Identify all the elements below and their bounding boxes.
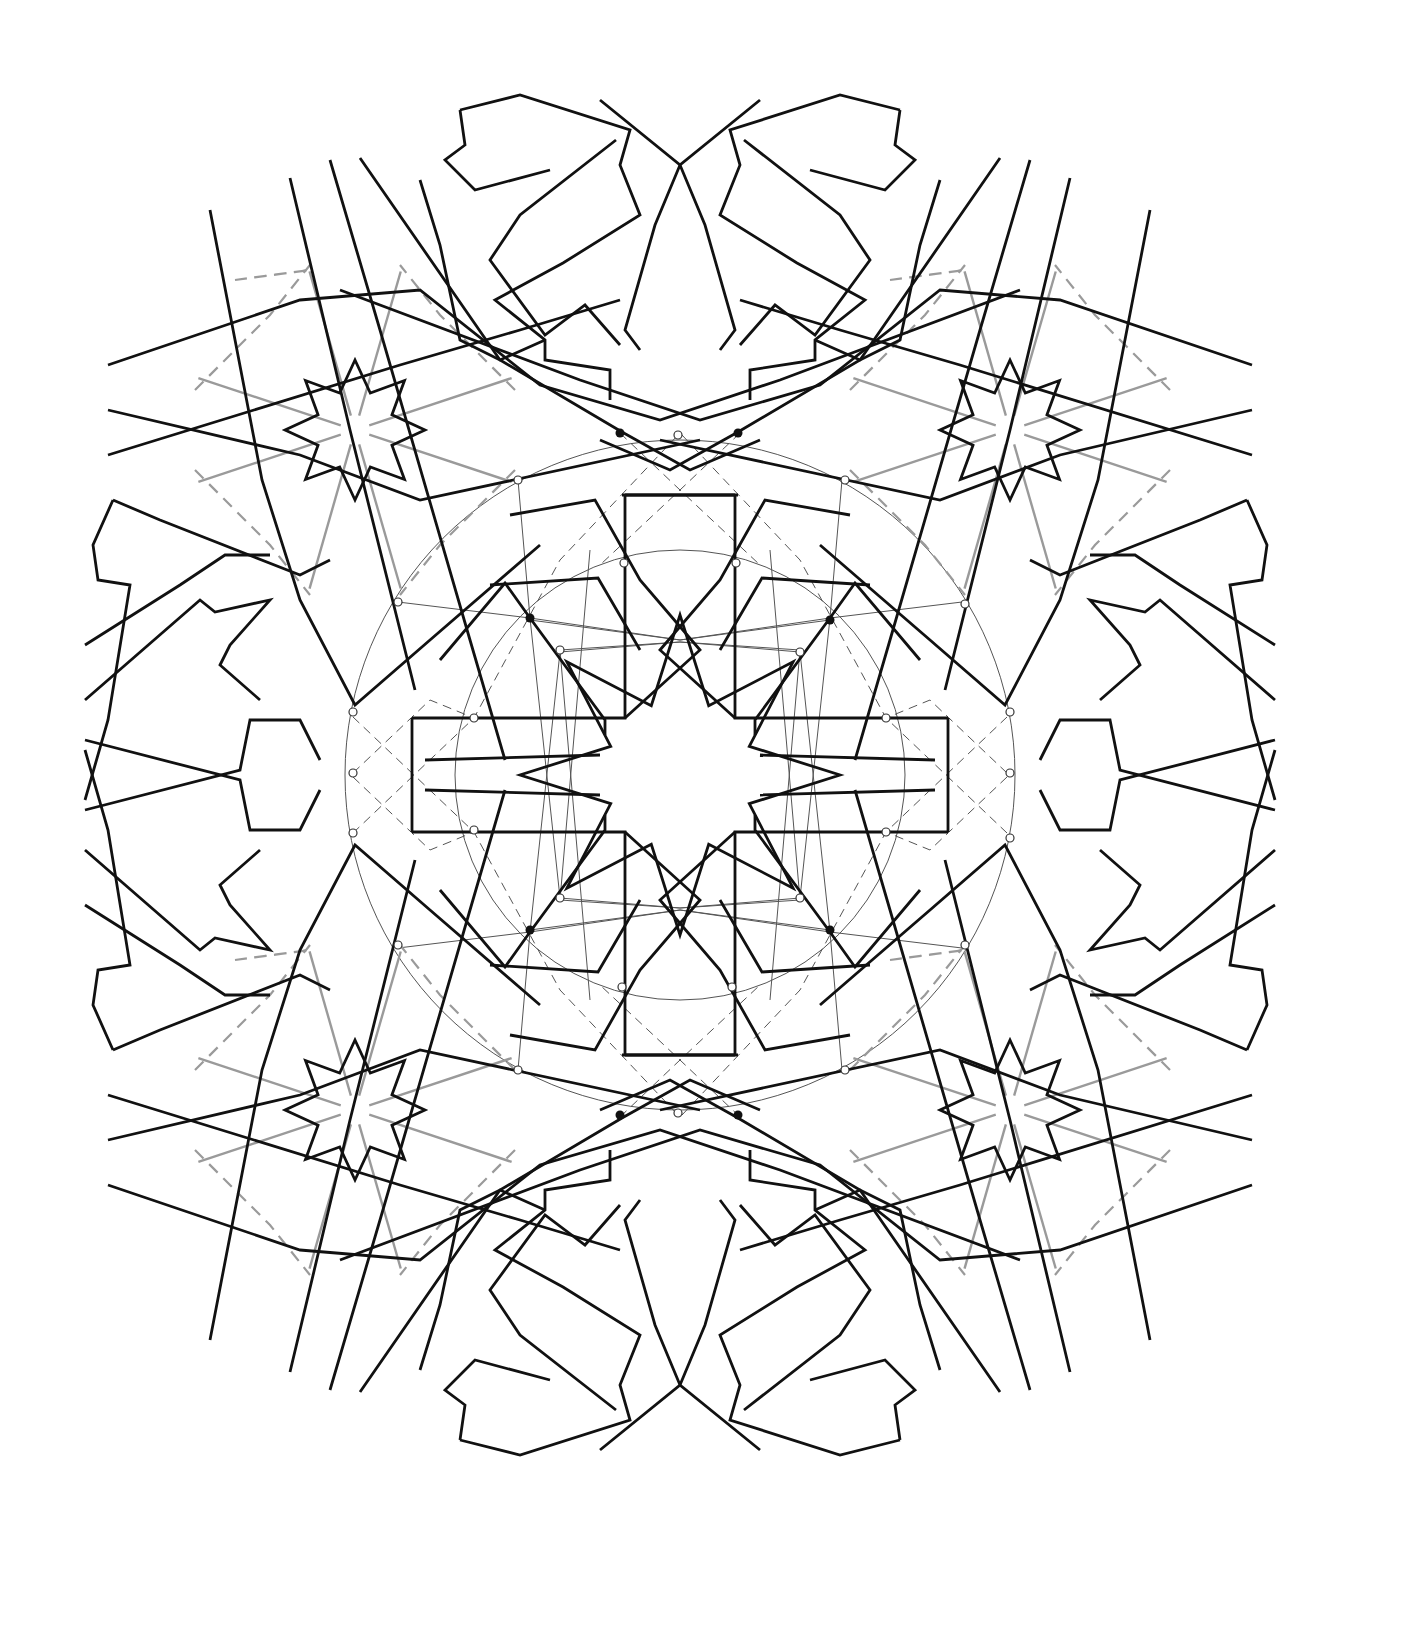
construction-line — [518, 480, 560, 898]
construction-line — [800, 652, 842, 1070]
construction-node — [882, 828, 890, 836]
kite — [510, 500, 700, 718]
top-lobe — [490, 1205, 620, 1410]
guide-ray — [310, 951, 351, 1095]
guide-dashed — [1055, 1150, 1170, 1275]
long-line — [820, 845, 1150, 1340]
long-line — [210, 845, 540, 1340]
guide-dashed — [850, 265, 965, 390]
intersection-node — [526, 926, 535, 935]
construction-node — [796, 894, 804, 902]
long-line — [740, 1095, 1252, 1250]
intersection-node — [526, 614, 535, 623]
long-line — [600, 1080, 1000, 1392]
long-line — [360, 1080, 760, 1392]
cross-arm — [735, 495, 948, 718]
construction-node — [1006, 834, 1014, 842]
construction-node — [674, 1109, 682, 1117]
side-lobe — [85, 750, 130, 1050]
guide-dashed — [1055, 265, 1170, 390]
intersection-node — [734, 1111, 743, 1120]
top-lobe — [740, 1205, 870, 1410]
intersection-node — [826, 926, 835, 935]
construction-line — [518, 652, 560, 1070]
construction-node — [556, 646, 564, 654]
top-lobe — [445, 110, 550, 190]
guide-dashed — [400, 470, 515, 595]
guide-ray — [1014, 951, 1056, 1095]
central-star — [520, 615, 840, 935]
side-lobe — [113, 500, 330, 575]
rosette-star — [285, 1040, 425, 1180]
construction-line — [560, 898, 800, 908]
construction-line — [770, 650, 800, 1000]
construction-node — [732, 559, 740, 567]
construction-node — [841, 1066, 849, 1074]
intersection-node — [826, 616, 835, 625]
long-line — [108, 290, 1020, 420]
construction-circle — [345, 440, 1015, 1110]
long-line — [945, 178, 1070, 690]
construction-node — [1006, 708, 1014, 716]
top-lobe — [445, 1360, 550, 1440]
guide-ray — [1014, 444, 1056, 588]
construction-node — [349, 708, 357, 716]
kite — [510, 832, 700, 1050]
side-lobe — [1040, 720, 1275, 810]
long-line — [340, 290, 1252, 420]
long-line — [360, 158, 760, 470]
construction-line — [800, 480, 842, 898]
kite — [660, 832, 850, 1050]
cross-arm — [735, 832, 948, 1055]
long-line — [210, 210, 540, 705]
construction-node — [556, 894, 564, 902]
kite — [490, 900, 640, 972]
side-lobe — [1230, 500, 1275, 800]
long-line — [600, 158, 1000, 470]
construction-node — [470, 826, 478, 834]
guide-dashed — [195, 945, 310, 1070]
construction-node — [841, 476, 849, 484]
top-lobe — [490, 140, 620, 345]
kite — [720, 578, 870, 650]
side-lobe — [1030, 500, 1247, 575]
guide-dashed — [1055, 945, 1170, 1070]
top-lobe — [680, 100, 760, 350]
construction-node — [514, 1066, 522, 1074]
guide-dashed — [195, 1150, 310, 1275]
construction-node — [514, 476, 522, 484]
pattern-construction-drawing — [0, 0, 1402, 1649]
cross-arm — [412, 832, 625, 1055]
long-line — [108, 300, 620, 455]
construction-node — [394, 941, 402, 949]
long-line — [108, 410, 700, 500]
top-lobe — [810, 110, 915, 190]
top-lobe — [810, 1360, 915, 1440]
construction-node — [1006, 769, 1014, 777]
long-line — [740, 300, 1252, 455]
cross-arm — [412, 495, 625, 718]
side-lobe — [85, 720, 320, 810]
construction-line — [560, 642, 800, 652]
pattern-lines — [85, 95, 1275, 1455]
kite — [660, 500, 850, 718]
intersection-node — [616, 1111, 625, 1120]
construction-node — [961, 941, 969, 949]
top-lobe — [740, 140, 870, 345]
side-lobe — [1040, 740, 1275, 830]
side-lobe — [1230, 750, 1275, 1050]
intersection-node — [734, 429, 743, 438]
construction-line — [560, 642, 800, 652]
long-line — [820, 210, 1150, 705]
construction-node — [620, 559, 628, 567]
kite — [490, 578, 640, 650]
construction-line — [560, 650, 590, 1000]
side-lobe — [113, 975, 330, 1050]
guide-ray — [359, 444, 401, 588]
long-line — [290, 860, 415, 1372]
guide-ray — [359, 951, 401, 1095]
intersection-node — [616, 429, 625, 438]
construction-node — [470, 714, 478, 722]
top-lobe — [600, 100, 680, 350]
guide-dashed — [195, 265, 310, 390]
